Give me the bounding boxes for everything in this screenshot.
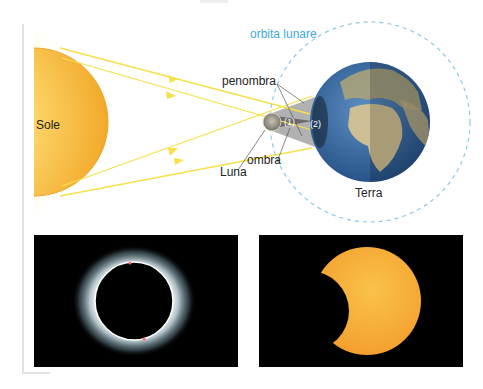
total-eclipse-photo (34, 235, 238, 367)
umbra-label: ombra (247, 153, 281, 167)
eclipse-diagram (0, 0, 483, 230)
moon-icon (263, 113, 281, 131)
crescent-sun-icon (259, 235, 463, 367)
partial-eclipse-photo (259, 235, 463, 367)
lunar-orbit-label: orbita lunare (250, 27, 317, 41)
frame-border-foot (22, 372, 50, 374)
sun-label: Sole (36, 118, 60, 132)
moon-label: Luna (220, 165, 247, 179)
penumbra-label: penombra (222, 74, 276, 88)
earth-label: Terra (355, 186, 382, 200)
region-1-label: (1) (284, 117, 295, 127)
corona-icon (34, 235, 238, 367)
region-2-label: (2) (310, 119, 321, 129)
